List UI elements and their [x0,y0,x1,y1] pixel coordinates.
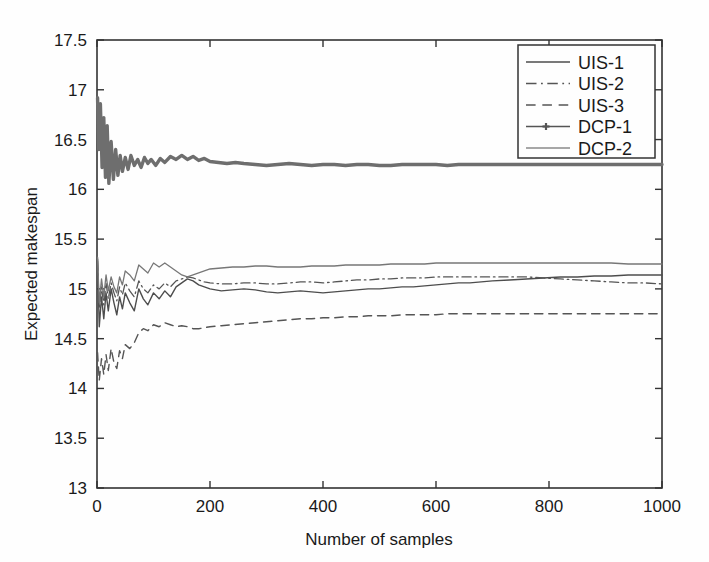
legend-label: DCP-2 [578,139,632,159]
y-axis-title: Expected makespan [22,187,41,341]
y-tick-label: 15.5 [54,230,87,249]
y-tick-label: 14 [68,379,87,398]
series-line-uis-2 [98,261,662,309]
series-line-uis-1 [98,259,662,327]
x-tick-label: 400 [309,497,337,516]
y-tick-label: 13 [68,479,87,498]
legend-label: UIS-2 [578,74,624,94]
x-tick-label: 600 [422,497,450,516]
y-tick-label: 15 [68,280,87,299]
y-tick-label: 16.5 [54,131,87,150]
y-tick-label: 16 [68,180,87,199]
x-tick-label: 800 [535,497,563,516]
x-tick-label: 1000 [643,497,681,516]
y-tick-label: 17 [68,81,87,100]
x-tick-label: 0 [92,497,101,516]
y-tick-label: 17.5 [54,31,87,50]
series-line-uis-3 [98,314,662,381]
legend-label: DCP-1 [578,117,632,137]
expected-makespan-line-chart: 1313.51414.51515.51616.51717.5 020040060… [0,0,709,562]
chart-figure: 1313.51414.51515.51616.51717.5 020040060… [0,0,709,562]
legend-label: UIS-3 [578,96,624,116]
x-tick-label: 200 [196,497,224,516]
y-tick-label: 13.5 [54,429,87,448]
y-tick-label: 14.5 [54,330,87,349]
legend-label: UIS-1 [578,53,624,73]
x-axis-title: Number of samples [305,530,452,549]
chart-legend: UIS-1UIS-2UIS-3DCP-1DCP-2 [518,45,655,159]
